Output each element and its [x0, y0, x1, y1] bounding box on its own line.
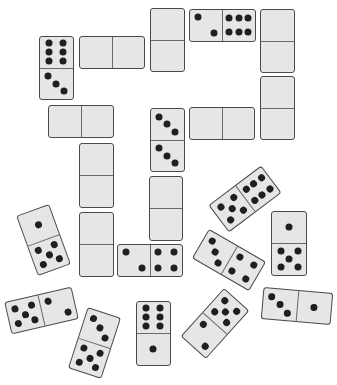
- pip-half-3: [151, 140, 184, 172]
- blank-half: [261, 41, 294, 73]
- pip-dot: [171, 249, 178, 256]
- pip-dot: [10, 304, 18, 312]
- pip-dot: [45, 40, 52, 47]
- pip-dot: [210, 307, 220, 317]
- pip-dot: [44, 73, 51, 80]
- pip-dot: [157, 323, 164, 330]
- pip-dot: [221, 306, 231, 316]
- pip-half-1: [137, 333, 170, 365]
- blank-half: [80, 37, 112, 68]
- blank-half: [151, 40, 184, 72]
- domino-tile[interactable]: [260, 76, 295, 140]
- domino-board: [0, 0, 337, 385]
- pip-dot: [14, 319, 22, 327]
- pip-dot: [155, 113, 162, 120]
- blank-half: [261, 77, 294, 108]
- pip-dot: [142, 323, 149, 330]
- pip-half-3: [151, 109, 184, 140]
- pip-half-2: [190, 10, 222, 41]
- pip-dot: [27, 300, 35, 308]
- pip-dot: [60, 49, 67, 56]
- pip-dot: [44, 250, 53, 259]
- domino-tile[interactable]: [261, 287, 334, 325]
- pip-dot: [229, 193, 239, 203]
- domino-tile[interactable]: [48, 105, 114, 138]
- pip-dot: [60, 40, 67, 47]
- domino-tile[interactable]: [4, 286, 79, 334]
- pip-dot: [53, 80, 60, 87]
- domino-tile[interactable]: [117, 244, 183, 277]
- pip-dot: [95, 349, 104, 358]
- domino-tile[interactable]: [79, 36, 145, 69]
- pip-dot: [157, 314, 164, 321]
- pip-dot: [60, 58, 67, 65]
- pip-half-2: [118, 245, 150, 276]
- domino-tile[interactable]: [181, 287, 250, 358]
- domino-tile[interactable]: [150, 8, 185, 72]
- domino-tile[interactable]: [150, 108, 185, 172]
- blank-half: [81, 106, 114, 137]
- pip-half-6: [222, 10, 255, 41]
- pip-dot: [235, 15, 242, 22]
- domino-tile[interactable]: [136, 301, 171, 366]
- blank-half: [190, 108, 222, 139]
- pip-dot: [200, 341, 210, 351]
- pip-dot: [256, 173, 266, 183]
- pip-dot: [286, 224, 293, 231]
- pip-dot: [241, 274, 251, 284]
- pip-dot: [122, 249, 129, 256]
- pip-dot: [284, 309, 292, 317]
- blank-half: [261, 108, 294, 140]
- pip-dot: [61, 88, 68, 95]
- blank-half: [49, 106, 81, 137]
- pip-dot: [164, 152, 171, 159]
- pip-dot: [245, 15, 252, 22]
- pip-dot: [34, 246, 43, 255]
- pip-dot: [44, 296, 52, 304]
- pip-dot: [79, 344, 88, 353]
- pip-dot: [63, 308, 71, 316]
- pip-dot: [49, 240, 58, 249]
- pip-dot: [245, 28, 252, 35]
- domino-tile[interactable]: [271, 211, 307, 276]
- domino-tile[interactable]: [192, 229, 266, 291]
- pip-dot: [210, 29, 217, 36]
- blank-half: [261, 10, 294, 41]
- pip-dot: [20, 310, 28, 318]
- pip-dot: [286, 256, 293, 263]
- pip-dot: [172, 128, 179, 135]
- blank-half: [112, 37, 145, 68]
- pip-dot: [142, 314, 149, 321]
- pip-dot: [241, 184, 251, 194]
- domino-tile[interactable]: [189, 107, 255, 140]
- pip-dot: [276, 301, 284, 309]
- domino-tile[interactable]: [79, 143, 114, 208]
- pip-dot: [155, 264, 162, 271]
- pip-dot: [164, 121, 171, 128]
- pip-half-6: [40, 37, 73, 68]
- blank-half: [151, 9, 184, 40]
- pip-dot: [227, 266, 237, 276]
- domino-tile[interactable]: [79, 212, 114, 277]
- blank-half: [150, 177, 182, 208]
- domino-tile[interactable]: [39, 36, 74, 100]
- pip-half-6: [137, 302, 170, 333]
- pip-dot: [220, 295, 230, 305]
- domino-tile[interactable]: [149, 176, 183, 241]
- pip-dot: [33, 221, 42, 230]
- pip-dot: [210, 247, 220, 257]
- pip-half-3: [262, 288, 298, 321]
- domino-tile[interactable]: [16, 204, 71, 276]
- pip-dot: [45, 49, 52, 56]
- pip-dot: [265, 184, 275, 194]
- pip-half-1: [295, 291, 332, 324]
- domino-tile[interactable]: [189, 9, 256, 42]
- pip-dot: [207, 236, 217, 246]
- pip-dot: [89, 314, 98, 323]
- blank-half: [150, 208, 182, 240]
- pip-dot: [30, 315, 38, 323]
- pip-dot: [138, 264, 145, 271]
- pip-dot: [199, 319, 209, 329]
- pip-dot: [250, 196, 260, 206]
- domino-tile[interactable]: [260, 9, 295, 73]
